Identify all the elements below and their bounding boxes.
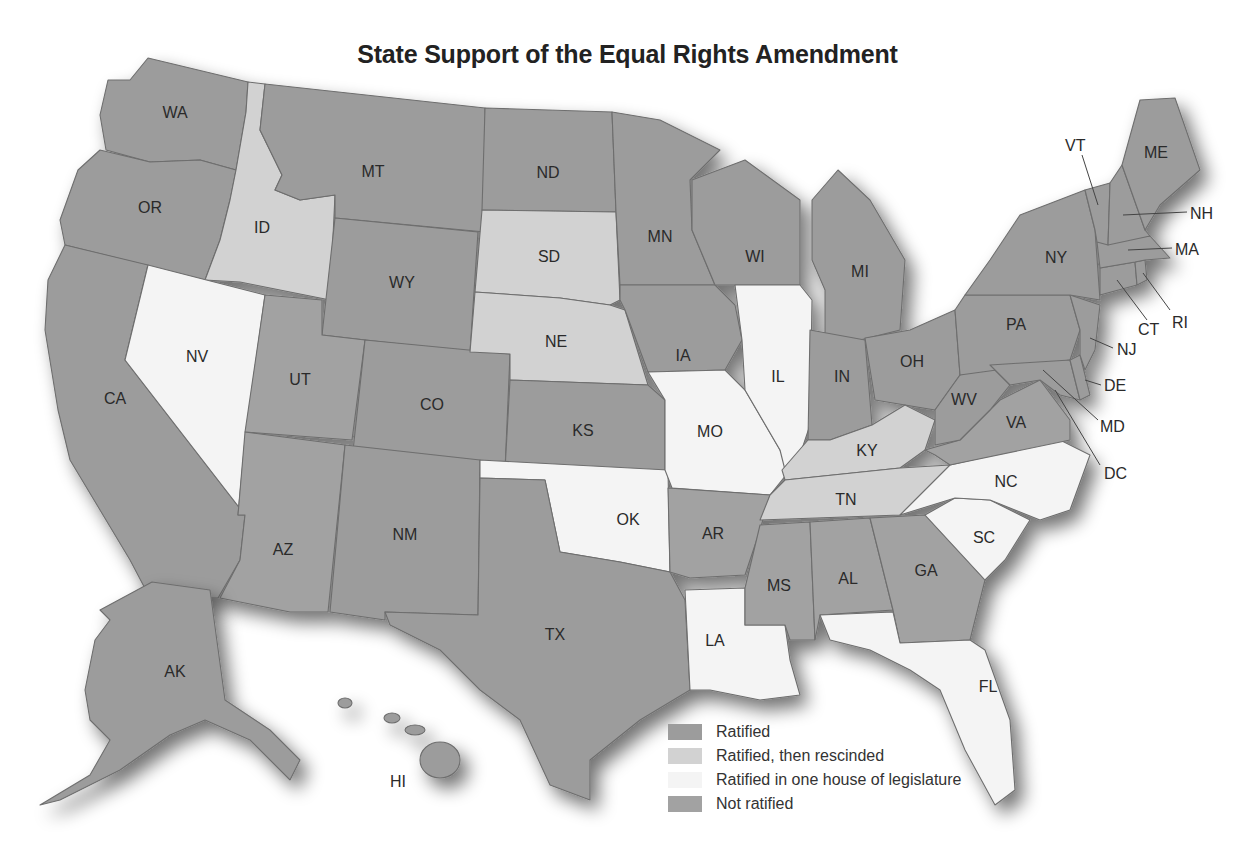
svg-text:NV: NV — [186, 348, 209, 365]
legend-swatch-rescinded — [668, 748, 702, 764]
svg-text:VA: VA — [1006, 414, 1026, 431]
svg-text:AL: AL — [838, 570, 858, 587]
svg-text:KS: KS — [572, 422, 593, 439]
svg-text:TX: TX — [545, 626, 566, 643]
legend-swatch-ratified — [668, 724, 702, 740]
svg-text:CT: CT — [1138, 321, 1160, 338]
legend-item-not-ratified: Not ratified — [668, 792, 962, 816]
svg-text:MS: MS — [767, 577, 791, 594]
svg-text:OH: OH — [900, 353, 924, 370]
svg-text:WV: WV — [951, 391, 977, 408]
svg-text:AZ: AZ — [273, 541, 294, 558]
svg-text:TN: TN — [835, 491, 856, 508]
us-map: WA OR CA ID NV MT WY UT CO AZ NM ND SD N… — [0, 0, 1255, 851]
svg-text:MD: MD — [1100, 418, 1125, 435]
svg-text:OR: OR — [138, 199, 162, 216]
svg-text:AR: AR — [702, 525, 724, 542]
svg-text:LA: LA — [705, 632, 725, 649]
legend-label: Ratified in one house of legislature — [716, 771, 962, 789]
svg-text:IA: IA — [675, 347, 690, 364]
svg-text:SD: SD — [538, 248, 560, 265]
legend-swatch-one-house — [668, 772, 702, 788]
state-wi[interactable] — [692, 160, 800, 285]
svg-text:IL: IL — [771, 368, 784, 385]
state-hi[interactable] — [338, 698, 460, 778]
svg-text:CO: CO — [420, 396, 444, 413]
state-nd[interactable] — [482, 108, 616, 212]
legend-item-ratified: Ratified — [668, 720, 962, 744]
svg-text:DC: DC — [1104, 465, 1127, 482]
svg-text:ID: ID — [254, 219, 270, 236]
svg-text:CA: CA — [104, 390, 127, 407]
svg-text:OK: OK — [616, 511, 639, 528]
svg-text:WI: WI — [745, 248, 765, 265]
state-ak[interactable] — [40, 582, 300, 805]
state-in[interactable] — [808, 330, 872, 440]
svg-text:VT: VT — [1065, 137, 1086, 154]
legend-item-rescinded: Ratified, then rescinded — [668, 744, 962, 768]
svg-text:NM: NM — [393, 526, 418, 543]
svg-text:NE: NE — [545, 333, 567, 350]
legend: Ratified Ratified, then rescinded Ratifi… — [668, 720, 962, 816]
svg-text:NC: NC — [994, 473, 1017, 490]
state-ny[interactable] — [965, 190, 1100, 300]
svg-text:MA: MA — [1175, 241, 1199, 258]
svg-text:MO: MO — [697, 423, 723, 440]
svg-text:AK: AK — [164, 663, 186, 680]
svg-text:KY: KY — [856, 442, 878, 459]
svg-text:MT: MT — [361, 163, 384, 180]
legend-swatch-not-ratified — [668, 796, 702, 812]
svg-text:NJ: NJ — [1117, 341, 1137, 358]
legend-label: Ratified, then rescinded — [716, 747, 884, 765]
legend-label: Not ratified — [716, 795, 793, 813]
svg-text:WA: WA — [162, 104, 188, 121]
svg-text:GA: GA — [914, 562, 937, 579]
state-ri[interactable] — [1135, 260, 1147, 285]
svg-text:RI: RI — [1172, 314, 1188, 331]
svg-text:SC: SC — [973, 529, 995, 546]
svg-text:MN: MN — [648, 228, 673, 245]
svg-text:WY: WY — [389, 274, 415, 291]
legend-label: Ratified — [716, 723, 770, 741]
svg-text:MI: MI — [851, 263, 869, 280]
svg-text:ND: ND — [536, 164, 559, 181]
svg-text:NY: NY — [1045, 249, 1068, 266]
svg-text:UT: UT — [289, 371, 311, 388]
svg-text:ME: ME — [1144, 144, 1168, 161]
svg-text:NH: NH — [1190, 205, 1213, 222]
svg-text:HI: HI — [390, 773, 406, 790]
svg-text:PA: PA — [1006, 316, 1026, 333]
svg-text:FL: FL — [979, 678, 998, 695]
legend-item-one-house: Ratified in one house of legislature — [668, 768, 962, 792]
svg-text:DE: DE — [1104, 377, 1126, 394]
state-mi[interactable] — [812, 170, 905, 340]
svg-text:IN: IN — [834, 368, 850, 385]
